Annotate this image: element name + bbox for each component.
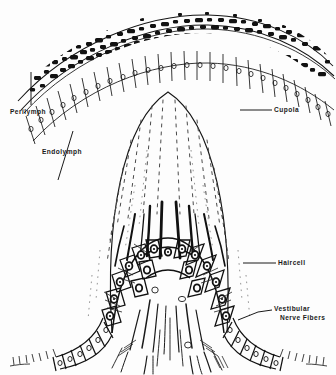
label-haircell: Haircell xyxy=(278,259,305,268)
label-cupola: Cupola xyxy=(274,106,299,115)
label-vnf-line1: Vestibular xyxy=(274,305,310,312)
figure-root: Perilymph Endolymph Cupola Haircell Vest… xyxy=(0,0,336,375)
label-vnf-line2: Nerve Fibers xyxy=(274,313,325,322)
label-vestibular-nerve-fibers: VestibularNerve Fibers xyxy=(274,304,325,323)
label-endolymph: Endolymph xyxy=(42,148,82,157)
label-perilymph: Perilymph xyxy=(10,108,46,117)
